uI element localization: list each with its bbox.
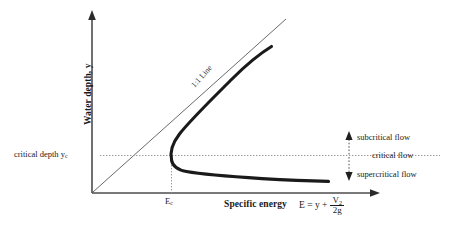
formula-fraction: V22g <box>330 196 344 216</box>
annotation-subcritical-flow: subcritical flow <box>357 133 410 142</box>
annotation-supercritical-flow: supercritical flow <box>357 170 417 179</box>
critical-energy-label: Ec <box>165 197 173 207</box>
critical-depth-label-sub: c <box>65 153 68 159</box>
subcritical-branch-curve <box>171 47 272 161</box>
supercritical-branch-curve <box>172 160 329 181</box>
critical-depth-label-text: critical depth y <box>14 149 65 159</box>
formula-lhs: E = y + <box>299 201 327 211</box>
critical-depth-label: critical depth yc <box>14 150 68 160</box>
x-axis-formula: E = y +V22g <box>299 196 345 216</box>
formula-numerator-sub: 2 <box>339 199 342 205</box>
subcritical-arrow-up <box>345 131 352 155</box>
y-axis-title: Water depth, y <box>84 63 94 125</box>
formula-numerator: V2 <box>330 196 344 206</box>
one-to-one-line <box>93 19 286 192</box>
formula-denominator: 2g <box>331 206 344 215</box>
x-axis-title: Specific energy <box>224 200 287 210</box>
critical-energy-label-sub: c <box>170 200 173 206</box>
supercritical-arrow-down <box>345 157 352 181</box>
specific-energy-diagram: Water depth, y 1:1 Line critical depth y… <box>0 0 450 239</box>
annotation-critical-flow: critical flow <box>372 151 413 160</box>
